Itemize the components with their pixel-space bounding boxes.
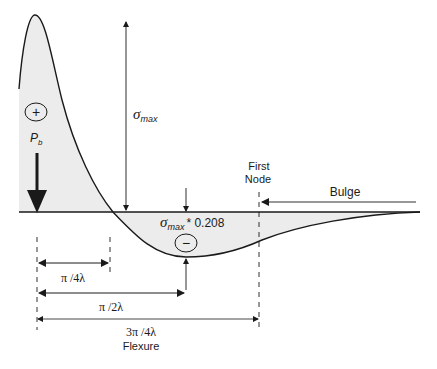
sigma-max-label: σmax	[133, 106, 158, 124]
flexure-diagram: + − Pb σmax σmax* 0.208 First Node Bulge…	[0, 0, 437, 369]
first-node-label-line1: First	[248, 160, 269, 172]
first-node-label-line2: Node	[245, 173, 271, 185]
dim-three-quarter-label: 3π /4λ	[126, 325, 156, 339]
minus-sign: −	[182, 235, 190, 251]
bulge-label: Bulge	[330, 185, 361, 199]
flexure-label: Flexure	[123, 340, 160, 352]
dim-half-label: π /2λ	[99, 300, 123, 314]
plus-sign: +	[32, 104, 40, 120]
dim-quarter-label: π /4λ	[61, 271, 85, 285]
